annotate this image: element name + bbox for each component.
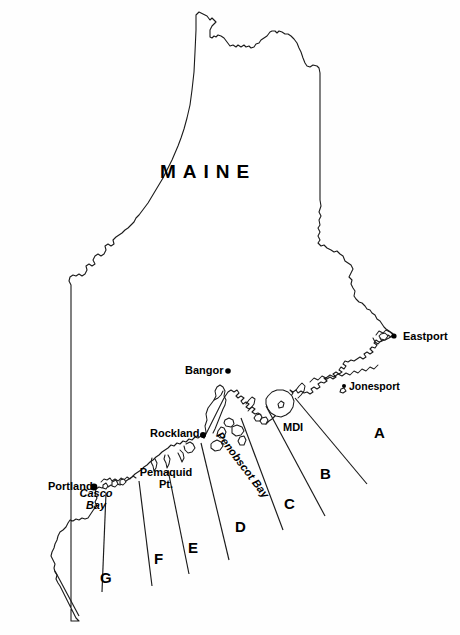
state-name-label: MAINE bbox=[160, 162, 256, 181]
place-label-mdi: MDI bbox=[283, 422, 303, 433]
pemaquid-line2: Pt. bbox=[135, 478, 197, 490]
maine-map: MAINE Eastport Jonesport Bangor Rockland… bbox=[0, 0, 460, 635]
island-north-haven bbox=[224, 418, 234, 427]
rockland-harbor-detail bbox=[184, 442, 195, 453]
city-dot-rockland bbox=[200, 432, 206, 438]
city-label-jonesport: Jonesport bbox=[349, 381, 400, 392]
zone-divider-A-B bbox=[295, 398, 367, 484]
island-jonesport-a bbox=[340, 388, 346, 393]
city-label-rockland: Rockland bbox=[150, 428, 200, 439]
zone-letter-a: A bbox=[374, 425, 385, 440]
city-label-eastport: Eastport bbox=[403, 331, 448, 342]
island-casco-b bbox=[112, 480, 118, 487]
zone-letter-g: G bbox=[100, 570, 112, 585]
sheepscot-peninsula-detail bbox=[178, 450, 184, 462]
place-label-pemaquid-point: Pemaquid Pt. bbox=[135, 466, 197, 491]
casco-bay-line1: Casco bbox=[70, 487, 122, 499]
pemaquid-line1: Pemaquid bbox=[135, 466, 197, 478]
island-casco-c bbox=[120, 479, 126, 485]
zone-letter-e: E bbox=[188, 540, 198, 555]
city-dot-eastport bbox=[391, 333, 396, 338]
zone-letter-f: F bbox=[154, 551, 163, 566]
island-deer-isle bbox=[232, 425, 244, 436]
map-canvas bbox=[0, 0, 460, 635]
zone-divider-F-G bbox=[139, 481, 152, 586]
casco-bay-line2: Bay bbox=[70, 499, 122, 511]
city-label-bangor: Bangor bbox=[185, 365, 224, 376]
zone-letter-d: D bbox=[235, 519, 246, 534]
zone-divider-D-E bbox=[201, 443, 229, 560]
zone-letter-c: C bbox=[284, 496, 295, 511]
island-small-a bbox=[238, 436, 246, 445]
water-label-casco-bay: Casco Bay bbox=[70, 487, 122, 512]
city-dot-jonesport bbox=[342, 384, 346, 388]
city-dot-bangor bbox=[225, 368, 231, 374]
zone-letter-b: B bbox=[320, 466, 331, 481]
maine-state-outline bbox=[51, 12, 395, 621]
